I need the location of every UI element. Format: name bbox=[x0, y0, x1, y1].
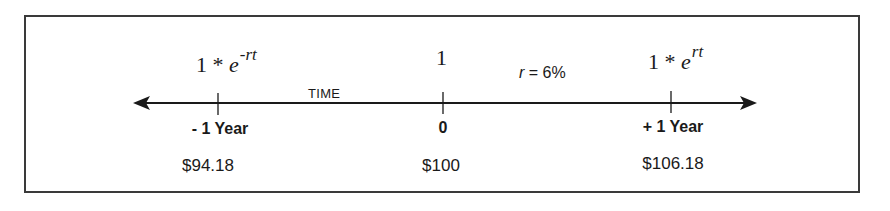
axis-title: TIME bbox=[308, 86, 340, 101]
rate-label: r = 6% bbox=[519, 64, 566, 82]
period-label-past: - 1 Year bbox=[192, 120, 249, 138]
formula-future: 1 * ert bbox=[648, 47, 703, 73]
period-label-future: + 1 Year bbox=[643, 118, 704, 136]
value-label-past: $94.18 bbox=[182, 156, 234, 176]
rate-equals: = bbox=[524, 64, 542, 81]
value-label-present: $100 bbox=[422, 156, 460, 176]
formula-present-base: 1 bbox=[436, 45, 447, 70]
rate-value: 6% bbox=[543, 64, 566, 81]
formula-present: 1 bbox=[436, 47, 447, 69]
period-label-present: 0 bbox=[439, 119, 448, 137]
formula-past: 1 * e-rt bbox=[196, 50, 257, 76]
formula-past-exponent: -rt bbox=[240, 45, 257, 64]
value-label-future: $106.18 bbox=[642, 154, 703, 174]
formula-future-e: e bbox=[681, 49, 691, 74]
timeline-axis bbox=[0, 0, 890, 211]
formula-future-exponent: rt bbox=[692, 42, 703, 61]
formula-future-base: 1 * bbox=[648, 49, 681, 74]
formula-past-base: 1 * bbox=[196, 52, 229, 77]
formula-past-e: e bbox=[229, 52, 239, 77]
